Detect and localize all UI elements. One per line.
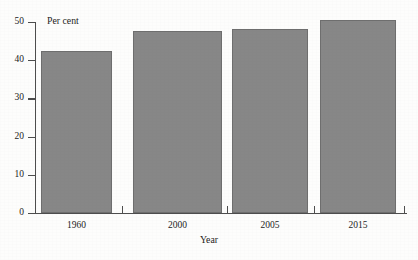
bar-chart: Per cent 50 40 30 20 10 0 1960 2000 2005… <box>0 0 418 260</box>
y-axis-label-40: 40 <box>0 55 24 65</box>
y-axis-tick-20 <box>28 137 36 138</box>
x-axis-tick-1 <box>122 206 123 213</box>
y-axis-unit-label: Per cent <box>47 15 79 26</box>
bar-1960 <box>41 51 112 212</box>
y-axis-label-10: 10 <box>0 170 24 180</box>
x-axis-label-2015: 2015 <box>328 220 388 230</box>
y-axis-label-0: 0 <box>0 208 24 218</box>
x-axis-tick-2 <box>227 206 228 213</box>
y-axis-tick-50 <box>28 22 36 23</box>
y-axis-label-50: 50 <box>0 17 24 27</box>
bar-2000 <box>133 31 222 213</box>
x-axis-label-2005: 2005 <box>240 220 300 230</box>
y-axis-tick-10 <box>28 175 36 176</box>
plot-area: Per cent 50 40 30 20 10 0 1960 2000 2005… <box>0 0 418 260</box>
x-axis-tick-4 <box>404 206 405 213</box>
x-axis-line <box>35 213 407 214</box>
y-axis-label-20: 20 <box>0 132 24 142</box>
bar-2015 <box>320 20 396 212</box>
y-axis-tick-0 <box>28 213 36 214</box>
x-axis-label-2000: 2000 <box>148 220 208 230</box>
x-axis-tick-3 <box>314 206 315 213</box>
x-axis-title: Year <box>0 234 418 245</box>
y-axis-line <box>35 22 36 214</box>
y-axis-tick-40 <box>28 60 36 61</box>
y-axis-tick-30 <box>28 98 36 99</box>
bar-2005 <box>232 29 308 212</box>
y-axis-label-30: 30 <box>0 93 24 103</box>
x-axis-label-1960: 1960 <box>47 220 107 230</box>
